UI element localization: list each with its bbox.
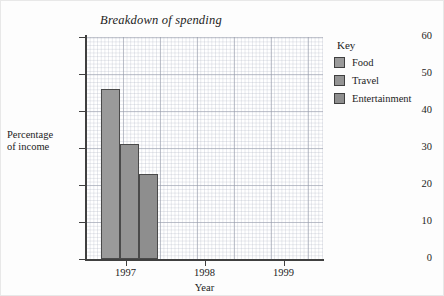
y-tick-mark <box>79 185 86 186</box>
legend-item-label: Entertainment <box>352 93 411 104</box>
x-tick-mark <box>205 260 206 266</box>
chart-figure: Breakdown of spending 6050403020100 1997… <box>0 0 444 296</box>
x-tick-label: 1999 <box>254 267 314 278</box>
chart-title: Breakdown of spending <box>1 13 321 28</box>
legend-title: Key <box>337 39 442 51</box>
bar-entertainment-1997 <box>139 174 158 259</box>
y-tick-label: 0 <box>373 252 443 263</box>
legend-item-travel: Travel <box>334 75 442 86</box>
legend-item-entertainment: Entertainment <box>334 93 442 104</box>
y-tick-mark <box>79 222 86 223</box>
y-axis-title-line2: of income <box>7 141 79 153</box>
x-tick-mark <box>284 260 285 266</box>
y-tick-label: 10 <box>373 215 443 226</box>
bar-travel-1997 <box>120 144 139 259</box>
y-tick-mark <box>79 259 86 260</box>
y-tick-label: 30 <box>373 141 443 152</box>
legend-items: FoodTravelEntertainment <box>334 57 442 104</box>
bar-food-1997 <box>101 89 120 259</box>
legend-item-label: Food <box>352 57 374 68</box>
y-axis-title: Percentage of income <box>7 129 79 153</box>
y-tick-mark <box>79 74 86 75</box>
legend: Key FoodTravelEntertainment <box>334 39 442 111</box>
legend-item-food: Food <box>334 57 442 68</box>
y-tick-mark <box>79 148 86 149</box>
legend-swatch-icon <box>334 93 345 104</box>
legend-swatch-icon <box>334 57 345 68</box>
y-axis-title-line1: Percentage <box>7 129 79 141</box>
legend-item-label: Travel <box>352 75 379 86</box>
x-tick-label: 1998 <box>175 267 235 278</box>
x-tick-label: 1997 <box>96 267 156 278</box>
x-tick-mark <box>126 260 127 266</box>
y-tick-mark <box>79 37 86 38</box>
y-tick-label: 20 <box>373 178 443 189</box>
legend-swatch-icon <box>334 75 345 86</box>
x-axis-title: Year <box>86 282 323 293</box>
y-tick-mark <box>79 111 86 112</box>
